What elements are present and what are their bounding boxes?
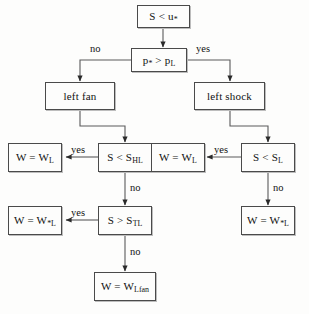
node-root-label: S < u* — [149, 11, 177, 22]
edge-label-shock-yes: yes — [214, 145, 228, 156]
node-fan-tail-test-label: S > STL — [108, 215, 143, 226]
node-fan-head-test[interactable]: S < SHL — [98, 143, 152, 172]
node-pressure-test-label: p* > pL — [143, 54, 176, 65]
node-fan-head-test-label: S < SHL — [107, 152, 143, 163]
node-shock-star-result-label: W = W*L — [247, 215, 289, 226]
node-shock-test-label: S < SL — [253, 152, 283, 163]
node-shock-star-result[interactable]: W = W*L — [241, 206, 295, 235]
edge-label-fan-head-yes: yes — [71, 145, 85, 156]
node-root[interactable]: S < u* — [137, 5, 190, 28]
node-shock-left-result-label: W = WL — [159, 152, 197, 163]
edge-label-pressure-no: no — [90, 44, 101, 55]
edge-label-shock-no: no — [273, 183, 284, 194]
node-fan-inside-result-label: W = WLfan — [101, 281, 149, 292]
node-shock-test[interactable]: S < SL — [241, 143, 295, 172]
node-left-fan-label: left fan — [63, 90, 96, 101]
edge-label-fan-tail-no: no — [130, 247, 141, 258]
node-fan-tail-result-label: W = W*L — [14, 215, 56, 226]
edge-label-fan-head-no: no — [130, 183, 141, 194]
flowchart-canvas: S < u* p* > pL no yes left fan left shoc… — [0, 0, 309, 314]
node-fan-inside-result[interactable]: W = WLfan — [94, 272, 156, 301]
node-shock-left-result[interactable]: W = WL — [151, 143, 205, 172]
node-fan-head-result[interactable]: W = WL — [8, 143, 62, 172]
edge-label-pressure-yes: yes — [196, 44, 210, 55]
node-left-shock[interactable]: left shock — [194, 82, 265, 110]
node-left-shock-label: left shock — [207, 90, 252, 101]
node-fan-tail-test[interactable]: S > STL — [98, 206, 152, 235]
node-fan-tail-result[interactable]: W = W*L — [8, 206, 62, 235]
edge-label-fan-tail-yes: yes — [71, 208, 85, 219]
node-fan-head-result-label: W = WL — [16, 152, 54, 163]
node-pressure-test[interactable]: p* > pL — [131, 48, 187, 72]
node-left-fan[interactable]: left fan — [45, 82, 115, 110]
